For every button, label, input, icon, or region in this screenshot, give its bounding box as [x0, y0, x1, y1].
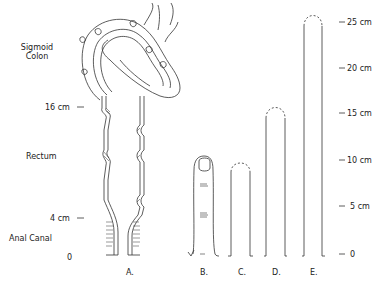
- label-rectum: Rectum: [26, 152, 57, 161]
- scale-5cm: 5 cm: [350, 202, 370, 211]
- rectum-right-wall: [128, 96, 140, 255]
- sigmoid-colon-outer: [82, 19, 180, 100]
- tube-d: [264, 118, 287, 256]
- panel-label-c: C.: [238, 268, 246, 277]
- panel-label-a: A.: [126, 268, 134, 277]
- fingernail: [199, 158, 210, 171]
- label-sigmoid-line2: Colon: [18, 52, 56, 61]
- rectum-left-wall: [106, 96, 118, 255]
- label-16cm: 16 cm: [45, 103, 70, 112]
- panel-label-e: E.: [310, 268, 318, 277]
- label-zero-left: 0: [67, 253, 72, 262]
- scale-15cm: 15 cm: [347, 109, 372, 118]
- scale-10cm: 10 cm: [347, 156, 372, 165]
- tube-e: [302, 26, 325, 256]
- scale-0: 0: [350, 250, 355, 259]
- tube-c: [228, 172, 253, 256]
- scale-20cm: 20 cm: [347, 64, 372, 73]
- panel-label-d: D.: [272, 268, 281, 277]
- label-anal-canal: Anal Canal: [9, 234, 52, 243]
- panel-label-b: B.: [200, 268, 208, 277]
- anatomy-diagram: [0, 0, 374, 285]
- scale-25cm: 25 cm: [347, 18, 372, 27]
- label-4cm: 4 cm: [50, 214, 70, 223]
- label-sigmoid-colon: Sigmoid Colon: [18, 43, 56, 61]
- label-sigmoid-line1: Sigmoid: [18, 43, 56, 52]
